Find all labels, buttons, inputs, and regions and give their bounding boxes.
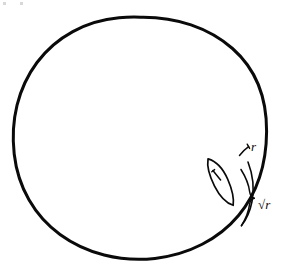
width-marker-r bbox=[240, 144, 250, 155]
inner-tick-stroke bbox=[213, 171, 221, 180]
lens-inner-tick bbox=[212, 170, 221, 180]
width-label-r: r bbox=[251, 139, 257, 154]
r-tick-stroke bbox=[240, 147, 249, 156]
geometry-sketch-svg: r √r bbox=[0, 0, 288, 268]
scan-artifact-group bbox=[3, 2, 23, 5]
main-circle bbox=[13, 17, 266, 259]
lens-outline bbox=[202, 155, 240, 209]
scan-speck bbox=[20, 2, 23, 5]
figure-canvas: r √r bbox=[0, 0, 288, 268]
length-label-sqrt-r: √r bbox=[258, 197, 271, 212]
lens-shape bbox=[202, 155, 240, 209]
scan-speck bbox=[3, 2, 6, 5]
